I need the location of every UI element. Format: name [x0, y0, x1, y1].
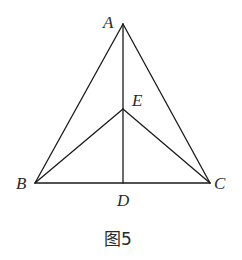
segment-EB	[35, 109, 123, 183]
geometry-figure: A E B C D 图5	[0, 0, 242, 260]
point-label-a: A	[102, 13, 114, 32]
point-label-e: E	[131, 91, 143, 110]
segment-EC	[123, 109, 210, 183]
point-label-d: D	[116, 191, 130, 210]
figure-caption: 图5	[104, 229, 132, 249]
point-label-c: C	[214, 174, 226, 193]
segment-AB	[35, 24, 123, 183]
point-label-b: B	[16, 174, 27, 193]
segments-group	[35, 24, 210, 183]
